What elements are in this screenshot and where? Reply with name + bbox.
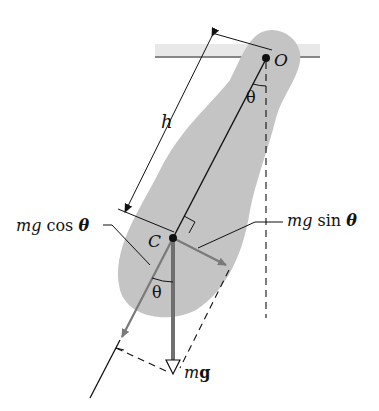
center-of-mass-point — [169, 234, 177, 242]
pendulum-diagram: O C h θ θ mg cos θ mg sin θ mg — [0, 0, 379, 411]
pivot-point-o — [262, 54, 270, 62]
weight-arrowhead-icon — [166, 360, 180, 374]
label-theta-top: θ — [246, 88, 256, 107]
label-theta-bottom: θ — [152, 283, 162, 302]
label-o: O — [274, 50, 288, 70]
dashed-parallel-2 — [116, 348, 168, 372]
label-mg-cos-theta: mg cos θ — [16, 216, 89, 235]
label-mg: mg — [184, 363, 210, 382]
line-extension — [90, 340, 120, 398]
label-h: h — [161, 111, 173, 132]
label-c: C — [148, 231, 161, 251]
pendulum-body — [118, 30, 300, 317]
label-mg-sin-theta: mg sin θ — [287, 211, 357, 230]
